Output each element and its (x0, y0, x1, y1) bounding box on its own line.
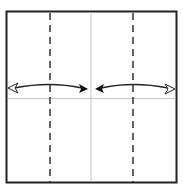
origami-diagram (0, 0, 183, 193)
paper-square (7, 12, 177, 183)
